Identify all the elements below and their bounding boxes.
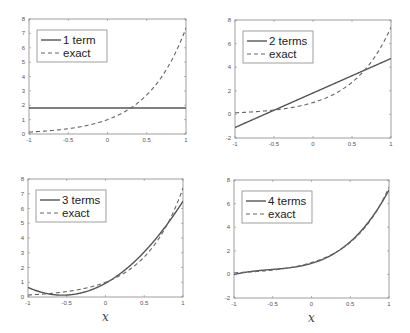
y-tick-label: 2 <box>227 248 231 254</box>
legend: 4 termsexact <box>242 191 312 223</box>
y-tick-label: 1 <box>21 279 25 285</box>
x-tick-label: 0.5 <box>348 141 357 147</box>
y-tick-label: 6 <box>228 41 232 47</box>
y-tick-label: 8 <box>228 17 232 23</box>
x-tick-label: 0.5 <box>140 300 149 306</box>
figure: -1-0.500.510123456781 termexact-1-0.500.… <box>0 0 410 333</box>
x-tick-label: 1 <box>184 137 188 143</box>
y-tick-label: 3 <box>21 250 25 256</box>
x-tick-label: -0.5 <box>63 137 74 143</box>
subplot-1: -1-0.500.510123456781 termexact <box>22 16 189 143</box>
y-tick-label: 8 <box>21 176 25 182</box>
legend-label: 4 terms <box>268 195 307 207</box>
x-axis-label: x <box>308 311 315 325</box>
y-tick-label: 5 <box>21 220 25 226</box>
x-axis-label: x <box>102 310 109 324</box>
y-tick-label: 0 <box>22 131 26 137</box>
y-tick-label: 6 <box>227 201 231 207</box>
y-tick-label: 1 <box>22 117 26 123</box>
subplot-4: -1-0.500.51-2024684 termsexactx <box>225 177 392 325</box>
x-tick-label: 0 <box>106 137 110 143</box>
series-approx-2-terms <box>235 59 391 128</box>
y-tick-label: 4 <box>22 74 26 80</box>
x-tick-label: -1 <box>231 301 237 307</box>
y-tick-label: 4 <box>227 224 231 230</box>
legend: 3 termsexact <box>36 190 106 222</box>
x-tick-label: -0.5 <box>268 301 279 307</box>
x-tick-label: 0.5 <box>143 137 152 143</box>
x-tick-label: -1 <box>232 141 238 147</box>
y-tick-label: 7 <box>21 191 25 197</box>
legend: 1 termexact <box>37 30 107 62</box>
x-tick-label: 1 <box>389 141 393 147</box>
x-tick-label: 0.5 <box>346 301 355 307</box>
x-tick-label: 0 <box>104 300 108 306</box>
y-tick-label: 7 <box>22 30 26 36</box>
y-tick-label: 0 <box>21 294 25 300</box>
legend-label: 1 term <box>63 34 96 46</box>
x-tick-label: -1 <box>26 137 32 143</box>
x-tick-label: 1 <box>387 301 391 307</box>
legend-label: exact <box>268 208 296 220</box>
legend-label: 3 terms <box>62 194 101 206</box>
y-tick-label: 2 <box>228 88 232 94</box>
y-tick-label: 4 <box>228 64 232 70</box>
y-tick-label: -2 <box>225 295 231 301</box>
y-tick-label: 0 <box>227 271 231 277</box>
y-tick-label: 6 <box>22 45 26 51</box>
y-tick-label: 8 <box>22 16 26 22</box>
y-tick-label: 3 <box>22 88 26 94</box>
y-tick-label: 2 <box>21 265 25 271</box>
legend: 2 termsexact <box>243 31 313 63</box>
x-tick-label: 0 <box>310 301 314 307</box>
subplot-3: -1-0.500.510123456783 termsexactx <box>21 176 186 324</box>
x-tick-label: -0.5 <box>62 300 73 306</box>
y-tick-label: 5 <box>22 59 26 65</box>
legend-label: exact <box>62 207 90 219</box>
y-tick-label: 4 <box>21 235 25 241</box>
legend-label: exact <box>63 47 91 59</box>
subplot-2: -1-0.500.51-2024682 termsexact <box>226 17 394 147</box>
legend-label: 2 terms <box>269 35 308 47</box>
x-tick-label: 1 <box>181 300 185 306</box>
x-tick-label: -1 <box>25 300 31 306</box>
x-tick-label: 0 <box>311 141 315 147</box>
y-tick-label: 2 <box>22 102 26 108</box>
y-tick-label: 8 <box>227 177 231 183</box>
y-tick-label: 6 <box>21 206 25 212</box>
x-tick-label: -0.5 <box>269 141 280 147</box>
y-tick-label: 0 <box>228 111 232 117</box>
legend-label: exact <box>269 48 297 60</box>
y-tick-label: -2 <box>226 135 232 141</box>
